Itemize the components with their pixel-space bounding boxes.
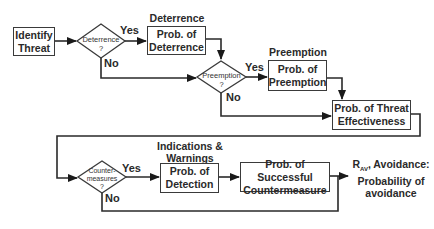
countermeasure-box-line1: Prob. of Successful [241,158,329,184]
threat-effectiveness-line1: Prob. of Threat [334,102,409,115]
identify-threat-line1: Identify [15,29,52,42]
deterrence-box-line1: Prob. of [149,28,204,41]
preemption-box: Prob. ofPreemption [268,60,327,91]
detection-box-line1: Prob. of [166,165,214,178]
countermeasures-no-label: No [105,192,120,204]
countermeasures-decision-line1: Counter- [78,167,126,175]
avoidance-symbol: R [352,158,360,170]
countermeasures-decision-text: Counter- measures ? [78,167,126,191]
deterrence-title: Deterrence [147,12,207,24]
deterrence-decision-question: ? [77,44,125,53]
indications-warnings-line1: Indications & [152,140,228,152]
countermeasures-yes-label: Yes [122,162,141,174]
deterrence-decision-text: Deterrence ? [77,35,125,53]
deterrence-decision-label: Deterrence [77,35,125,44]
deterrence-no-label: No [104,57,119,69]
deterrence-yes-label: Yes [120,24,139,36]
countermeasures-decision-line2: measures [78,175,126,183]
deterrence-box: Prob. ofDeterrence [147,26,206,55]
countermeasure-box-line2: Countermeasure [241,184,329,197]
preemption-decision-label: Preemption [197,71,246,80]
preemption-title: Preemption [266,46,330,58]
avoidance-line1: , Avoidance: [368,158,430,170]
avoidance-line2: Probability of [349,175,433,187]
indications-warnings-title: Indications & Warnings [152,140,228,164]
preemption-no-label: No [226,91,241,103]
preemption-yes-label: Yes [245,61,264,73]
preemption-decision-question: ? [197,80,246,89]
threat-effectiveness-box: Prob. of ThreatEffectiveness [332,100,411,130]
detection-box: Prob. ofDetection [160,163,219,193]
preemption-box-line1: Prob. of [269,63,327,76]
identify-threat-box: IdentifyThreat [13,27,55,56]
preemption-box-line2: Preemption [269,76,327,89]
avoidance-subscript: AV [360,166,368,172]
deterrence-box-line2: Deterrence [149,41,204,54]
detection-box-line2: Detection [166,178,214,191]
identify-threat-line2: Threat [15,42,52,55]
successful-countermeasure-box: Prob. of SuccessfulCountermeasure [240,162,330,192]
preemption-decision-text: Preemption ? [197,71,246,89]
avoidance-output: RAV, Avoidance: Probability of avoidance [349,158,433,199]
avoidance-line3: avoidance [349,187,433,199]
threat-effectiveness-line2: Effectiveness [334,115,409,128]
countermeasures-decision-question: ? [78,183,126,191]
